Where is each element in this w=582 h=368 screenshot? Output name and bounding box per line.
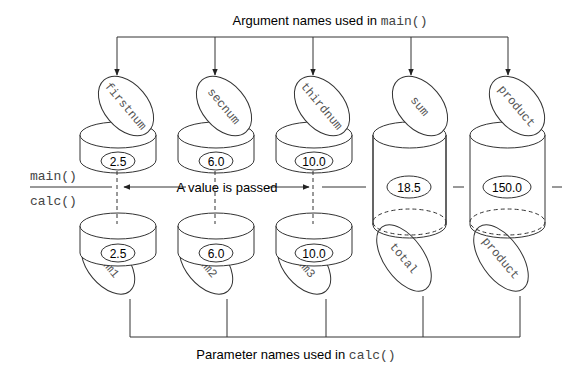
top-caption: Argument names used in main() — [233, 13, 428, 29]
argument-secnum: secnum 6.0 — [178, 66, 263, 220]
argument-firstnum: firstnum 2.5 — [80, 66, 165, 220]
parameter-num1: num1 2.5 — [71, 213, 156, 304]
parameter-num2: num2 6.0 — [169, 213, 254, 304]
bottom-caption: Parameter names used in calc() — [196, 347, 395, 363]
param-value: 10.0 — [302, 247, 326, 261]
main-scope-label: main() — [30, 169, 77, 184]
param-value: 6.0 — [208, 247, 225, 261]
param-value: 2.5 — [110, 247, 127, 261]
top-bracket — [117, 37, 508, 75]
arg-value: 2.5 — [110, 155, 127, 169]
diagram-canvas: Argument names used in main() main() cal… — [0, 0, 582, 368]
calc-scope-label: calc() — [30, 194, 77, 209]
argument-thirdnum: thirdnum 10.0 — [276, 66, 361, 220]
diagram-svg: Argument names used in main() main() cal… — [0, 0, 582, 368]
arg-value: 150.0 — [492, 181, 522, 195]
arg-value: 18.5 — [397, 181, 421, 195]
argument-product-parameter-product: product product 150.0 — [463, 66, 556, 301]
arg-value: 10.0 — [302, 155, 326, 169]
parameter-num3: num3 10.0 — [267, 213, 352, 304]
value-passed-label: A value is passed — [176, 180, 277, 195]
argument-sum-parameter-total: total sum 18.5 — [366, 66, 459, 301]
arg-value: 6.0 — [208, 155, 225, 169]
bottom-bracket — [130, 296, 520, 337]
